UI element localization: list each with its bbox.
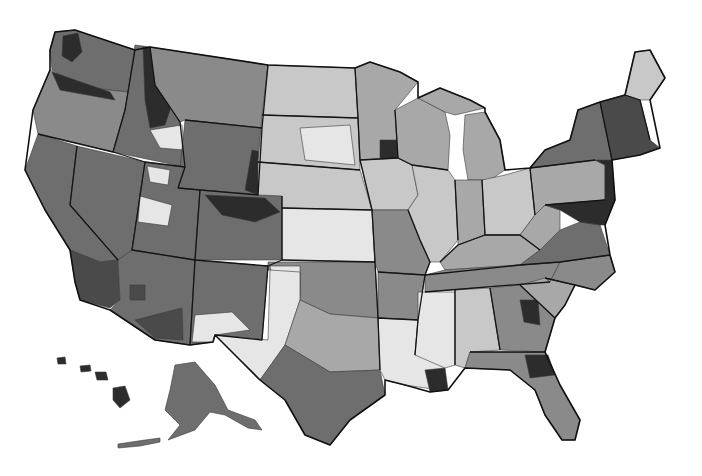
region-hawaii-kauai (57, 357, 66, 364)
region-hawaii-oahu (80, 365, 91, 372)
region-alaska-aleutians (118, 438, 160, 448)
region-maine (625, 50, 665, 100)
region-phoenix (130, 285, 145, 300)
region-hawaii-big-island (113, 386, 130, 408)
region-minnesota-southeast (380, 140, 398, 158)
region-florida-north (525, 355, 555, 378)
us-choropleth-map (0, 0, 702, 476)
region-michigan-lower (463, 112, 505, 180)
region-ohio (482, 168, 535, 235)
map-canvas (0, 0, 702, 476)
region-layer (25, 30, 665, 448)
region-kansas (282, 208, 375, 262)
region-alaska (165, 362, 262, 440)
region-indiana (455, 180, 485, 245)
region-north-dakota (262, 65, 358, 118)
region-hawaii-maui (95, 372, 108, 380)
region-florida (465, 352, 580, 440)
region-south-dakota-east (300, 125, 355, 165)
